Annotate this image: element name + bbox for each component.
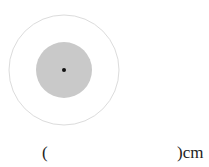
answer-open-paren: ( <box>42 144 48 161</box>
concentric-circles-figure <box>0 0 209 167</box>
answer-close-unit: )cm <box>177 144 203 161</box>
center-point <box>62 68 66 72</box>
